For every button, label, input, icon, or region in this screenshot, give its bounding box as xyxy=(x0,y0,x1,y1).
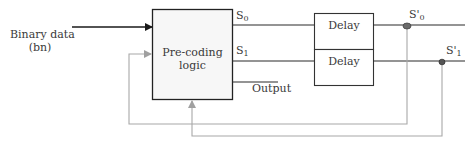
s0-prime-letter: S' xyxy=(409,8,420,21)
precoding-block-label: Pre-coding logic xyxy=(152,46,233,72)
s1-prime-letter: S' xyxy=(446,44,457,57)
output-label: Output xyxy=(252,82,291,95)
s0-label: S0 xyxy=(236,9,249,25)
input-label-line2: (bn) xyxy=(10,41,70,54)
s1-letter: S xyxy=(236,44,244,57)
s1-prime-subscript: 1 xyxy=(457,49,462,58)
s0-prime-label: S'0 xyxy=(409,8,425,24)
s0-prime-subscript: 0 xyxy=(420,13,425,22)
precoding-diagram: Binary data (bn) Pre-coding logic S0 S1 … xyxy=(0,0,476,143)
s1-prime-label: S'1 xyxy=(446,44,462,60)
precoding-label-line2: logic xyxy=(152,59,233,72)
s0-letter: S xyxy=(236,9,244,22)
s0-subscript: 0 xyxy=(244,14,249,23)
precoding-label-line1: Pre-coding xyxy=(152,46,233,59)
delay-block-1-label: Delay xyxy=(314,19,374,32)
s1-prime-node xyxy=(439,59,445,65)
s1-label: S1 xyxy=(236,44,249,60)
delay-block-2-label: Delay xyxy=(314,55,374,68)
s1-subscript: 1 xyxy=(244,49,249,58)
input-label-line1: Binary data xyxy=(10,28,70,41)
input-label: Binary data (bn) xyxy=(10,28,70,54)
